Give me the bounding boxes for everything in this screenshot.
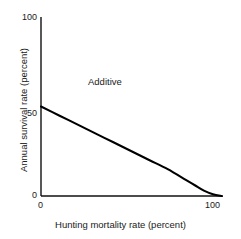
y-axis-title-wrap: Annual survival rate (percent) <box>13 25 27 195</box>
series-line-additive <box>41 107 222 197</box>
x-axis-tick-label-0: 0 <box>38 200 43 210</box>
y-axis-tick-label-0: 0 <box>32 190 37 200</box>
y-axis-title: Annual survival rate (percent) <box>18 48 29 172</box>
x-axis-tick-label-100: 100 <box>205 200 220 210</box>
y-axis-tick-label-100: 100 <box>22 12 37 22</box>
x-axis-title: Hunting mortality rate (percent) <box>0 219 241 230</box>
chart-annotation-additive: Additive <box>88 76 122 87</box>
chart-figure: 100 50 0 0 100 Additive Annual survival … <box>0 0 241 239</box>
